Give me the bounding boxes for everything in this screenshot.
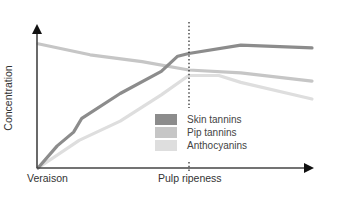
y-axis-arrow-icon (32, 24, 42, 34)
y-axis-label-text: Concentration (2, 65, 14, 130)
x-label-veraison: Veraison (27, 172, 68, 184)
chart: Concentration Veraison Pulp ripeness Ski… (0, 0, 338, 202)
legend-swatch-anthocyanins (155, 140, 177, 151)
legend-swatch-skin-tannins (155, 114, 177, 125)
legend-label: Pip tannins (187, 127, 236, 138)
legend-item-anthocyanins: Anthocyanins (155, 139, 247, 152)
legend-item-pip-tannins: Pip tannins (155, 126, 247, 139)
legend-item-skin-tannins: Skin tannins (155, 113, 247, 126)
legend-label: Skin tannins (187, 114, 241, 125)
legend-swatch-pip-tannins (155, 127, 177, 138)
legend: Skin tannins Pip tannins Anthocyanins (155, 113, 247, 152)
x-axis-arrow-icon (304, 163, 314, 173)
legend-label: Anthocyanins (187, 140, 247, 151)
series-line-pip-tannins (38, 44, 312, 81)
x-label-pulp-ripeness: Pulp ripeness (158, 172, 222, 184)
